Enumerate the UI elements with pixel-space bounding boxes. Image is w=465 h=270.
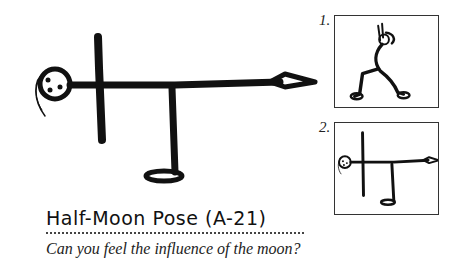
step-2-label: 2. bbox=[319, 119, 330, 136]
pose-subtitle: Can you feel the influence of the moon? bbox=[46, 240, 301, 258]
step-1-label: 1. bbox=[319, 12, 330, 29]
half-moon-stick-figure bbox=[0, 0, 330, 200]
lunge-figure-icon bbox=[335, 16, 438, 107]
half-moon-figure-icon bbox=[335, 123, 438, 214]
pose-title: Half-Moon Pose (A-21) bbox=[46, 207, 266, 229]
step-2-frame bbox=[334, 122, 439, 215]
step-1-frame bbox=[334, 15, 439, 108]
dotted-divider bbox=[46, 232, 304, 236]
